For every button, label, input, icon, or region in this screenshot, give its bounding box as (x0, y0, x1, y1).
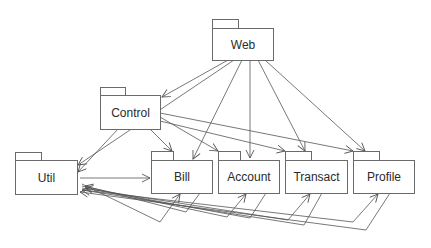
package-diagram: Web Control Util Bill Account Transact P… (0, 0, 431, 248)
package-label: Web (212, 28, 274, 61)
edge-web-profile (265, 60, 365, 151)
edge-control-account (160, 117, 218, 151)
edge-control-util (78, 129, 118, 172)
package-label: Bill (151, 160, 213, 194)
edge-control-bill (150, 129, 172, 151)
edge-web-transact (258, 60, 305, 151)
edge-profile-util (80, 192, 390, 230)
edge-web-bill (193, 60, 242, 159)
package-label: Profile (353, 160, 415, 194)
package-label: Account (218, 160, 280, 194)
package-label: Control (100, 95, 161, 130)
package-label: Transact (285, 160, 348, 194)
edge-control-profile (160, 113, 353, 151)
package-label: Util (15, 160, 78, 195)
edge-web-control (162, 60, 228, 97)
